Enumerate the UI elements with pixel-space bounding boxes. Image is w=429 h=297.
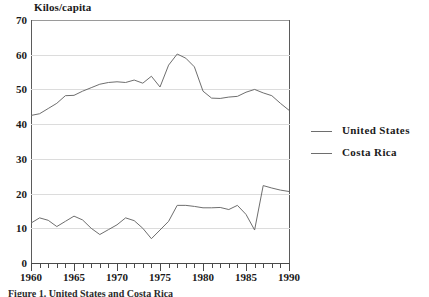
x-tick-major	[74, 264, 75, 271]
y-tick-label: 0	[1, 258, 27, 269]
y-axis-tick-labels: 010203040506070	[0, 0, 27, 297]
y-tick-label: 70	[1, 15, 27, 26]
x-tick-minor	[186, 264, 187, 268]
legend-label: United States	[342, 124, 410, 136]
x-tick-minor	[151, 264, 152, 268]
x-tick-label: 1985	[226, 272, 266, 283]
y-tick-label: 40	[1, 119, 27, 130]
x-tick-major	[31, 264, 32, 271]
x-tick-minor	[212, 264, 213, 268]
y-tick-label: 30	[1, 154, 27, 165]
x-tick-minor	[83, 264, 84, 268]
x-tick-minor	[177, 264, 178, 268]
series-lines	[31, 20, 290, 264]
x-tick-minor	[237, 264, 238, 268]
x-tick-minor	[40, 264, 41, 268]
x-tick-major	[203, 264, 204, 271]
x-tick-label: 1970	[97, 272, 137, 283]
x-tick-minor	[255, 264, 256, 268]
x-tick-major	[117, 264, 118, 271]
x-axis-tick-labels: 1960196519701975198019851990	[0, 272, 429, 286]
x-tick-label: 1965	[54, 272, 94, 283]
series-line	[31, 186, 289, 239]
x-tick-label: 1960	[11, 272, 51, 283]
x-tick-minor	[272, 264, 273, 268]
y-tick-label: 50	[1, 84, 27, 95]
x-tick-minor	[263, 264, 264, 268]
y-axis-title: Kilos/capita	[34, 1, 91, 13]
x-tick-label: 1975	[140, 272, 180, 283]
series-line	[31, 54, 289, 115]
x-tick-minor	[65, 264, 66, 268]
legend-item: Costa Rica	[311, 146, 426, 168]
x-tick-minor	[108, 264, 109, 268]
x-tick-minor	[280, 264, 281, 268]
x-tick-minor	[134, 264, 135, 268]
x-tick-label: 1990	[269, 272, 309, 283]
legend-line-swatch	[311, 131, 332, 132]
y-tick-label: 20	[1, 189, 27, 200]
x-tick-major	[160, 264, 161, 271]
x-tick-minor	[194, 264, 195, 268]
x-tick-minor	[91, 264, 92, 268]
legend-label: Costa Rica	[342, 146, 397, 158]
x-tick-minor	[229, 264, 230, 268]
x-tick-major	[289, 264, 290, 271]
legend-item: United States	[311, 124, 426, 146]
y-tick-label: 10	[1, 223, 27, 234]
y-tick-label: 60	[1, 50, 27, 61]
x-tick-minor	[220, 264, 221, 268]
x-tick-major	[246, 264, 247, 271]
x-tick-minor	[169, 264, 170, 268]
x-tick-minor	[48, 264, 49, 268]
chart-figure: Kilos/capita 010203040506070 19601965197…	[0, 0, 429, 297]
legend-line-swatch	[311, 153, 332, 154]
plot-area	[31, 20, 290, 264]
chart-legend: United StatesCosta Rica	[311, 124, 426, 168]
x-tick-minor	[100, 264, 101, 268]
figure-caption: Figure 1. United States and Costa Rica	[8, 288, 173, 297]
x-tick-minor	[126, 264, 127, 268]
x-tick-minor	[57, 264, 58, 268]
x-tick-label: 1980	[183, 272, 223, 283]
x-tick-minor	[143, 264, 144, 268]
